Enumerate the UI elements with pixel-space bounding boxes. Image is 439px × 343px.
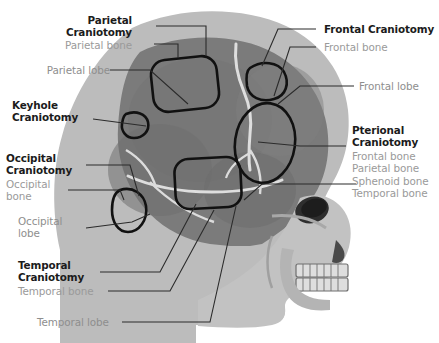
diagram-canvas: ParietalCraniotomy Parietal bone Parieta… (0, 0, 439, 343)
label-occipital-bone: Occipitalbone (6, 178, 50, 203)
label-occipital-craniotomy: OccipitalCraniotomy (6, 152, 72, 177)
temporal-line1: Temporal (18, 259, 71, 271)
parietal-craniotomy-line1: Parietal (88, 14, 132, 26)
label-temporal-lobe: Temporal lobe (37, 316, 109, 328)
temporal-line2: Craniotomy (18, 271, 84, 283)
keyhole-line1: Keyhole (12, 99, 58, 111)
label-pterional-bones: Frontal boneParietal boneSphenoid boneTe… (352, 150, 429, 200)
pterional-line1: Pterional (352, 124, 404, 136)
lower-teeth (296, 278, 348, 291)
pterional-line2: Craniotomy (352, 136, 418, 148)
pterional-bone-1: Frontal bone (352, 150, 416, 162)
occipital-bone-line2: bone (6, 190, 32, 202)
label-temporal-bone: Temporal bone (18, 285, 94, 297)
label-frontal-bone: Frontal bone (324, 41, 388, 53)
label-keyhole-craniotomy: KeyholeCraniotomy (12, 99, 78, 124)
label-pterional-craniotomy: PterionalCraniotomy (352, 124, 418, 149)
pterional-bone-2: Parietal bone (352, 162, 419, 174)
parietal-craniotomy-line2: Craniotomy (66, 26, 132, 38)
keyhole-line2: Craniotomy (12, 111, 78, 123)
label-parietal-lobe: Parietal lobe (10, 64, 110, 76)
occipital-line2: Craniotomy (6, 164, 72, 176)
pterional-bone-3: Sphenoid bone (352, 175, 429, 187)
occipital-line1: Occipital (6, 152, 56, 164)
label-temporal-craniotomy: TemporalCraniotomy (18, 259, 84, 284)
label-frontal-craniotomy: Frontal Craniotomy (324, 23, 434, 35)
label-frontal-lobe: Frontal lobe (359, 80, 419, 92)
label-parietal-bone: Parietal bone (24, 39, 132, 51)
occipital-lobe-line1: Occipital (18, 215, 62, 227)
label-occipital-lobe: Occipitallobe (18, 215, 62, 240)
occipital-bone-line1: Occipital (6, 178, 50, 190)
label-parietal-craniotomy: ParietalCraniotomy (28, 14, 132, 39)
pterional-bone-4: Temporal bone (352, 187, 428, 199)
upper-teeth (296, 264, 348, 277)
occipital-lobe-line2: lobe (18, 227, 40, 239)
